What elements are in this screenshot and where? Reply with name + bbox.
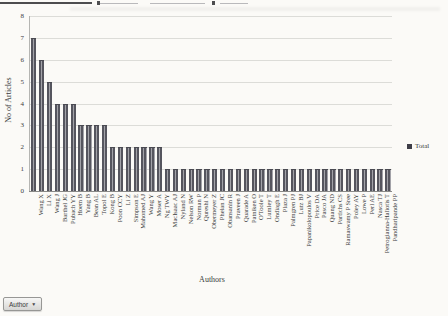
bar-Barthel JG [55,104,60,193]
bar-Pandharipande PP [385,169,390,192]
bar-Yang B [78,125,83,192]
y-tick-label: 0 [4,187,24,195]
x-category-label: Pandharipande PP [391,194,399,286]
bar-Bean AL [86,125,91,192]
x-category-label: Obansanin R [226,194,234,286]
x-category-label: Li Z [124,194,132,286]
y-axis-title: No of Articles [4,62,13,138]
x-category-label: Perl AE [368,194,376,286]
x-category-label: Lutz BJ [297,194,305,286]
bar-Moser A [149,147,154,192]
x-category-label: Wang X [37,194,45,286]
legend-marker-icon [407,144,412,149]
x-category-label: Poley AY [352,194,360,286]
gridline [30,147,392,148]
x-category-label: Wang J [53,194,61,286]
x-category-label: Ng TWY [163,194,171,286]
legend-label: Total [415,142,429,150]
bar-Pasco JA [315,169,320,192]
scan-artifact [70,7,440,11]
x-category-label: Lowe P [360,194,368,286]
bar-Partichs CS [330,169,335,192]
bar-Perl AE [362,169,367,192]
bar-Kong B [102,125,107,192]
bar-Ondiagh E [267,169,272,192]
y-tick-label: 2 [4,143,24,151]
bar-Topol E [94,125,99,192]
dropdown-arrow-icon: ▼ [31,302,36,307]
bar-Lowe P [354,169,359,192]
legend: Total [407,142,429,150]
bar-Li Z [118,147,123,192]
bar-Praveen J [228,169,233,192]
y-tick-label: 8 [4,12,24,20]
bar-Phelan JC [212,169,217,192]
bar-Plaza J [275,169,280,192]
x-category-label: Papanikolopoulos V [305,194,313,286]
x-category-label: Nyland N [179,194,187,286]
x-category-label: Quarade A [242,194,250,286]
bar-Poley AY [346,169,351,192]
clipped-chart-title [0,0,250,5]
gridline [30,38,392,39]
bar-Poon CCY [110,147,115,192]
bar-Li X [39,60,44,192]
bar-Quarade A [236,169,241,192]
bar-Pubach YY [63,104,68,193]
bar-Ng TWY [157,147,162,192]
bar-Papanikolopoulos V [299,169,304,192]
gridline [30,125,392,126]
x-axis-title: Authors [150,275,274,284]
y-tick-label: 1 [4,165,24,173]
x-category-label: Topol E [100,194,108,286]
x-category-label: Nelson RW [187,194,195,286]
gridline [30,82,392,83]
x-category-label: MacIsaac AJ [171,194,179,286]
bar-Norman P [189,169,194,192]
bar-MacIsaac AJ [165,169,170,192]
x-category-label: Praveen J [234,194,242,286]
bar-O'Toole T [252,169,257,192]
bar-Wang Y [141,147,146,192]
bar-Lutz BJ [291,169,296,192]
author-field-button[interactable]: Author ▼ [3,297,42,311]
x-axis-line [29,191,392,192]
bar-Simpson E [126,147,131,192]
x-category-label: Partichs CS [336,194,344,286]
bar-Nelson RW [181,169,186,192]
gridline [30,104,392,105]
bar-Obermeyer Z [204,169,209,192]
x-category-label: Phelan JC [218,194,226,286]
x-category-label: Barthel JG [61,194,69,286]
bar-Palmgren PJ [283,169,288,192]
bar-Qureshi N [196,169,201,192]
bar-Nasca TJ [370,169,375,192]
bar-Wang X [31,38,36,192]
x-category-label: Poon CCY [116,194,124,286]
bar-Hoem B [71,104,76,193]
bar-Nyland N [173,169,178,192]
x-category-label: Palmgren PJ [289,194,297,286]
x-category-label: Plaza J [281,194,289,286]
y-tick-label: 7 [4,34,24,42]
bar-Mahomed AJ [134,147,139,192]
author-field-label: Author [9,301,28,308]
x-category-label: Kong B [108,194,116,286]
bar-Wang J [47,82,52,192]
bar-Petrogianna-Haliotis T [377,169,382,192]
pivot-chart-screenshot: 012345678Wang XLi XWang JBarthel JGPubac… [0,0,448,316]
x-category-label: Li X [45,194,53,286]
x-category-label: Moser A [155,194,163,286]
bar-Patniken O [244,169,249,192]
bar-Obansanin R [220,169,225,192]
bar-Price DA [307,169,312,192]
bar-Ramaswamy P Sree [338,169,343,192]
gridline [30,60,392,61]
x-category-label: Ramaswamy P Sree [344,194,352,286]
bar-Lumley T [259,169,264,192]
y-axis-line [29,16,30,191]
gridline [30,16,392,17]
bar-Quang ND [322,169,327,192]
